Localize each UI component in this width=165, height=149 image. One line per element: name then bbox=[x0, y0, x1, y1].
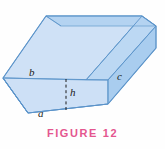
figure-container: b a c h FIGURE 12 bbox=[0, 0, 165, 149]
figure-caption: FIGURE 12 bbox=[0, 127, 165, 139]
label-h: h bbox=[70, 87, 76, 98]
label-a: a bbox=[38, 108, 44, 119]
label-b: b bbox=[29, 67, 35, 78]
front-outer-wall-face bbox=[3, 78, 108, 113]
top-rim-back-edge bbox=[46, 16, 156, 26]
label-c: c bbox=[117, 71, 122, 82]
